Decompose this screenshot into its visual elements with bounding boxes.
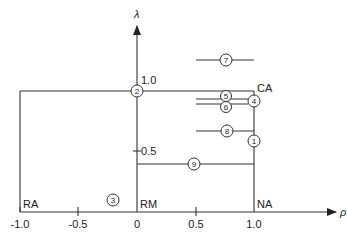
svg-text:6: 6 bbox=[224, 103, 229, 112]
point-marker-9: 9 bbox=[188, 158, 200, 170]
x-tick-label: 0.5 bbox=[188, 218, 203, 230]
svg-text:3: 3 bbox=[111, 196, 116, 205]
diagram-canvas: ρ -1.0 -0.5 0 0.5 1.0 λ 1.0 0.5 RA RM NA… bbox=[0, 0, 347, 238]
x-axis: ρ -1.0 -0.5 0 0.5 1.0 bbox=[11, 206, 347, 230]
svg-text:7: 7 bbox=[224, 56, 229, 65]
point-marker-6: 6 bbox=[221, 102, 232, 113]
x-tick-label: 1.0 bbox=[246, 218, 261, 230]
y-tick-label: 1.0 bbox=[141, 74, 156, 86]
x-tick-label: -1.0 bbox=[11, 218, 30, 230]
x-tick-label: 0 bbox=[134, 218, 140, 230]
svg-text:9: 9 bbox=[192, 160, 197, 169]
point-marker-7: 7 bbox=[220, 54, 232, 66]
svg-text:2: 2 bbox=[135, 87, 140, 96]
point-marker-5: 5 bbox=[221, 91, 232, 102]
svg-text:1: 1 bbox=[252, 137, 257, 146]
y-axis-label: λ bbox=[133, 8, 139, 20]
svg-text:8: 8 bbox=[225, 127, 230, 136]
point-marker-4: 4 bbox=[248, 95, 260, 107]
x-axis-label: ρ bbox=[339, 206, 346, 218]
corner-label-rm: RM bbox=[140, 198, 157, 210]
corner-label-na: NA bbox=[257, 198, 273, 210]
point-marker-3: 3 bbox=[107, 194, 119, 206]
x-tick-label: -0.5 bbox=[69, 218, 88, 230]
point-marker-2: 2 bbox=[131, 85, 143, 97]
corner-label-ca: CA bbox=[257, 82, 273, 94]
y-axis: λ 1.0 0.5 bbox=[133, 8, 156, 212]
corner-label-ra: RA bbox=[23, 198, 39, 210]
point-marker-8: 8 bbox=[221, 125, 233, 137]
svg-text:5: 5 bbox=[224, 92, 229, 101]
svg-text:4: 4 bbox=[252, 97, 257, 106]
point-marker-1: 1 bbox=[248, 135, 260, 147]
y-tick-label: 0.5 bbox=[141, 145, 156, 157]
